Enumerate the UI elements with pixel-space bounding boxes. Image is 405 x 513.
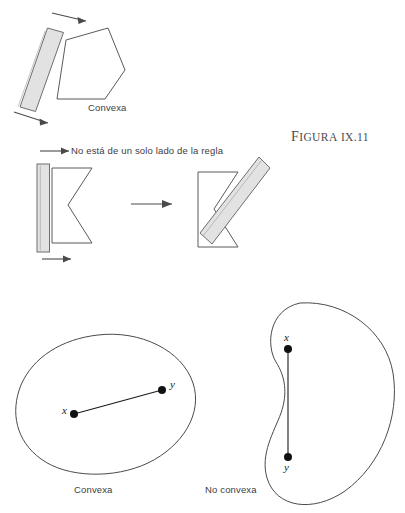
label-point-y-right: y — [284, 461, 289, 473]
label-point-x-left: x — [62, 404, 67, 416]
figure-caption-number: IX.11 — [341, 131, 369, 143]
figure-page: FIGURA IX.11 Convexa No está de un solo … — [0, 0, 405, 513]
label-not-one-side: No está de un solo lado de la regla — [71, 145, 223, 156]
label-convexa-blob: Convexa — [74, 484, 113, 495]
no-convex-blob-point-y — [284, 453, 292, 461]
figure-caption: FIGURA IX.11 — [291, 129, 369, 145]
label-point-x-right: x — [284, 331, 289, 343]
label-point-y-left: y — [170, 378, 175, 390]
convex-blob-point-y — [158, 386, 166, 394]
middle-left-ruler-shape — [37, 164, 50, 252]
convex-pentagon-shape — [57, 28, 125, 99]
dart-shape-left — [52, 168, 92, 243]
convex-blob-shape — [16, 334, 196, 474]
convex-blob-point-x — [70, 410, 78, 418]
figure-caption-rest: IGURA — [299, 131, 337, 143]
middle-transition-arrow-icon — [131, 200, 172, 208]
middle-panel-group — [37, 148, 270, 263]
top-lower-arrow-icon — [14, 112, 48, 126]
figure-illustration — [0, 0, 405, 513]
no-convex-blob-point-x — [284, 345, 292, 353]
middle-top-arrow-icon — [40, 148, 69, 155]
label-convexa-pentagon: Convexa — [88, 102, 127, 113]
middle-bottom-arrow-icon — [42, 256, 71, 263]
bottom-left-blob-group — [16, 334, 196, 474]
top-upper-arrow-icon — [52, 13, 86, 24]
figure-caption-lead: F — [291, 129, 299, 144]
label-no-convexa-blob: No convexa — [205, 484, 257, 495]
